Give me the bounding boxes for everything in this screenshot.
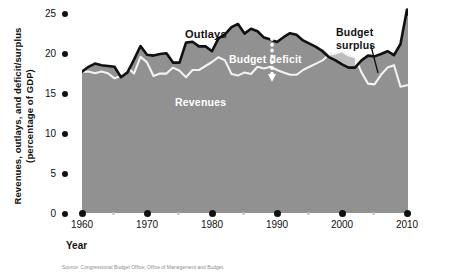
x-minor-tick-1965 [112,212,115,215]
x-tick-label-2010: 2010 [387,219,427,230]
plot-area [0,0,455,273]
x-tick-dot-1990 [274,210,281,217]
x-tick-dot-2010 [404,210,411,217]
x-tick-label-1990: 1990 [257,219,297,230]
x-tick-dot-1980 [209,210,216,217]
x-minor-tick-1985 [242,212,245,215]
x-minor-tick-1975 [177,212,180,215]
x-tick-label-1960: 1960 [62,219,102,230]
annotation-outlays: Outlays [185,28,227,40]
x-tick-label-1980: 1980 [192,219,232,230]
x-tick-dot-1970 [144,210,151,217]
x-tick-dot-2000 [339,210,346,217]
source-note: Source: Congressional Budget Office; Off… [62,264,224,270]
x-minor-tick-2005 [372,212,375,215]
annotation-budget-deficit: Budget deficit [229,53,302,65]
annotation-budget-surplus: Budget surplus [336,26,375,52]
chart-figure: Revenues, outlays, and deficit/surplus (… [0,0,455,273]
annotation-revenues: Revenues [175,96,226,108]
x-tick-dot-1960 [79,210,86,217]
x-axis-title: Year [66,240,87,251]
x-tick-label-1970: 1970 [127,219,167,230]
x-minor-tick-1995 [307,212,310,215]
x-tick-label-2000: 2000 [322,219,362,230]
